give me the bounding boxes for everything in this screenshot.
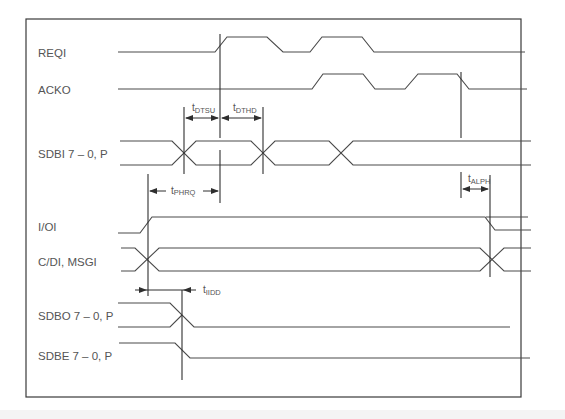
signal-label-sdbe: SDBE 7 – 0, P [38,350,112,362]
waveform-sdbe [119,343,530,358]
page-bottom-edge [0,410,565,419]
signal-label-sdbi: SDBI 7 – 0, P [38,148,108,160]
waveform-cdi-msgi [121,248,531,271]
timing-dtsu: tDTSU [185,102,219,121]
signal-label-sdbo: SDBO 7 – 0, P [38,310,114,322]
timing-phrq: tPHRQ [149,185,219,197]
waveform-reqi [118,37,525,52]
svg-text:tDTSU: tDTSU [192,102,215,115]
signal-label-cdi-msgi: C/DI, MSGI [38,256,97,268]
timing-diagram: REQI ACKO SDBI 7 – 0, P I/OI C/DI, MSGI … [0,0,565,419]
diagram-frame [26,19,521,397]
svg-text:tPHRQ: tPHRQ [171,185,196,197]
svg-text:tIIDD: tIIDD [203,284,221,297]
svg-text:tALPH: tALPH [468,173,490,186]
waveform-sdbo [118,303,510,327]
waveform-sdbi [120,141,531,165]
signal-label-ioi: I/OI [38,221,57,233]
signal-label-acko: ACKO [38,84,71,96]
timing-dthd: tDTHD [221,102,262,121]
timing-alph: tALPH [462,173,490,192]
waveform-acko [118,74,527,89]
signal-label-reqi: REQI [38,47,66,59]
svg-text:tDTHD: tDTHD [233,102,257,115]
waveform-ioi [118,217,531,233]
